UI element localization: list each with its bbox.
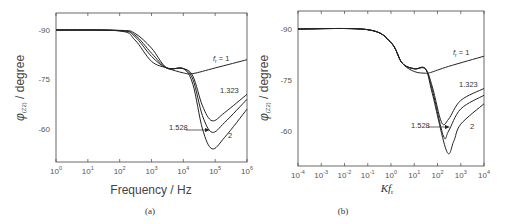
annotation-1323-b: 1.323 — [459, 80, 478, 89]
figure: -90 -75 -60 100101102103104105106 φ(Z2) … — [0, 0, 510, 224]
x-tick-label: 10-1 — [361, 169, 375, 180]
ticks-a — [56, 13, 247, 162]
x-tick-label: 10-3 — [314, 169, 328, 180]
caption-a: (a) — [145, 206, 155, 216]
x-tick-label: 10-2 — [338, 169, 352, 180]
x-tick-label: 100 — [385, 169, 397, 180]
x-tick-label: 10-4 — [291, 169, 305, 180]
y-axis-unit: / degree — [13, 55, 27, 103]
series-line — [56, 30, 247, 132]
y-tick-label: -75 — [280, 76, 292, 85]
series-line — [56, 30, 247, 121]
annotation-eq: = 1 — [457, 48, 470, 57]
y-axis-subscript: (Z2) — [21, 102, 27, 113]
arrowhead-a — [205, 128, 210, 132]
annotation-1528-b: 1.528 — [411, 121, 430, 130]
x-tick-label: 106 — [241, 165, 253, 176]
y-tick-label: -60 — [38, 125, 50, 134]
series-line — [56, 30, 247, 149]
y-tick-labels-b: -90 -75 -60 — [280, 25, 292, 136]
series-line — [56, 30, 247, 74]
x-axis-subscript: r — [391, 188, 394, 196]
x-tick-label: 102 — [432, 169, 444, 180]
y-axis-label-b: φ(Z2) / degree — [257, 55, 271, 122]
annotation-2-b: 2 — [470, 122, 474, 131]
x-tick-label: 101 — [82, 165, 94, 176]
annotation-eq: = 1 — [217, 54, 230, 63]
annotation-2-a: 2 — [228, 131, 232, 140]
x-axis-label-a: Frequency / Hz — [110, 183, 191, 197]
x-tick-label: 104 — [177, 165, 189, 176]
x-tick-label: 102 — [114, 165, 126, 176]
annotation-1323-a: 1.323 — [220, 86, 239, 95]
plot-frame-b — [298, 11, 484, 166]
x-axis-label-b: Kfr — [380, 182, 394, 196]
annotation-fr-b: fr = 1 — [453, 48, 469, 58]
x-tick-labels-b: 10-410-310-210-1100101102103104 — [291, 169, 490, 180]
chart-a: -90 -75 -60 100101102103104105106 φ(Z2) … — [13, 13, 253, 216]
x-tick-label: 105 — [209, 165, 221, 176]
y-axis-label-a: φ(Z2) / degree — [13, 55, 27, 122]
annotation-fr-a: fr = 1 — [213, 54, 229, 64]
y-axis-unit: / degree — [257, 55, 271, 103]
arrowhead-b — [445, 125, 450, 129]
series-line — [298, 28, 484, 138]
x-tick-label: 104 — [478, 169, 490, 180]
x-tick-label: 101 — [408, 169, 420, 180]
y-axis-subscript: (Z2) — [265, 102, 271, 113]
x-tick-labels-a: 100101102103104105106 — [50, 165, 253, 176]
y-tick-label: -60 — [280, 127, 292, 136]
annotation-1528-a: 1.528 — [169, 123, 188, 132]
curves-a — [56, 30, 247, 149]
y-tick-labels-a: -90 -75 -60 — [38, 26, 50, 134]
x-tick-label: 103 — [455, 169, 467, 180]
plot-frame-a — [56, 13, 247, 162]
y-tick-label: -75 — [38, 75, 50, 84]
chart-b: -90 -75 -60 10-410-310-210-1100101102103… — [257, 11, 490, 216]
ticks-b — [298, 11, 484, 166]
caption-b: (b) — [338, 206, 349, 216]
y-axis-symbol: φ — [257, 113, 271, 121]
x-tick-label: 100 — [50, 165, 62, 176]
y-axis-symbol: φ — [13, 113, 27, 121]
y-tick-label: -90 — [38, 26, 50, 35]
y-tick-label: -90 — [280, 25, 292, 34]
x-tick-label: 103 — [146, 165, 158, 176]
